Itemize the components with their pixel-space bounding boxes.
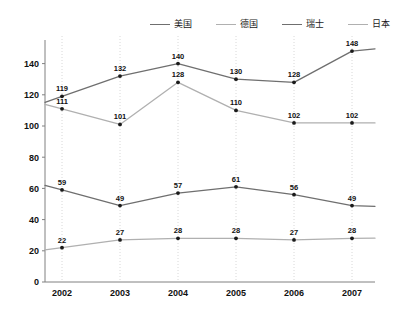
data-point-label: 132 (114, 64, 127, 73)
data-point[interactable] (234, 236, 238, 240)
data-point-label: 61 (232, 175, 240, 184)
line-chart: 美国 德国 瑞士 日本 020406080100120140 200220032… (0, 0, 393, 313)
y-tick-label: 80 (29, 153, 39, 163)
x-tick-label: 2002 (52, 288, 72, 298)
data-point-label: 22 (58, 236, 66, 245)
data-point[interactable] (60, 107, 64, 111)
y-tick-label: 120 (24, 90, 39, 100)
data-point[interactable] (176, 80, 180, 84)
y-tick-labels: 020406080100120140 (24, 59, 45, 287)
data-point-label: 102 (288, 111, 301, 120)
y-tick-label: 60 (29, 184, 39, 194)
y-tick-label: 40 (29, 215, 39, 225)
data-point[interactable] (234, 109, 238, 113)
x-tick-label: 2007 (342, 288, 362, 298)
data-point[interactable] (118, 123, 122, 127)
series-point-labels: 1191321401301281481111011281101021025949… (56, 39, 358, 245)
data-point[interactable] (176, 62, 180, 66)
data-point-label: 128 (172, 70, 185, 79)
series-line (45, 185, 375, 206)
data-point[interactable] (176, 191, 180, 195)
data-point-label: 49 (348, 194, 356, 203)
data-point[interactable] (60, 246, 64, 250)
data-point[interactable] (60, 188, 64, 192)
series-lines (45, 49, 375, 250)
data-point[interactable] (234, 185, 238, 189)
gridlines (62, 36, 352, 282)
data-point[interactable] (234, 77, 238, 81)
data-point[interactable] (292, 193, 296, 197)
data-point-label: 111 (56, 97, 68, 106)
axis-lines (45, 40, 375, 282)
data-point-label: 57 (174, 181, 182, 190)
data-point-label: 101 (114, 112, 127, 121)
data-point[interactable] (350, 121, 354, 125)
x-tick-label: 2004 (168, 288, 188, 298)
data-point[interactable] (350, 204, 354, 208)
data-point-label: 140 (172, 52, 185, 61)
series-line (45, 238, 375, 250)
series-line (45, 82, 375, 124)
data-point[interactable] (292, 121, 296, 125)
x-tick-labels: 200220032004200520062007 (52, 288, 362, 298)
y-tick-label: 0 (34, 277, 39, 287)
data-point-label: 128 (288, 70, 301, 79)
data-point-label: 59 (58, 178, 66, 187)
data-point-label: 148 (346, 39, 359, 48)
data-point-label: 27 (116, 228, 124, 237)
series-line (45, 49, 375, 102)
data-point-label: 49 (116, 194, 124, 203)
data-point[interactable] (292, 238, 296, 242)
data-point-label: 102 (346, 111, 359, 120)
y-tick-label: 20 (29, 246, 39, 256)
data-point-label: 28 (174, 226, 182, 235)
data-point-label: 110 (230, 98, 242, 107)
data-point-label: 28 (348, 226, 356, 235)
data-point[interactable] (292, 80, 296, 84)
y-tick-label: 100 (24, 121, 39, 131)
x-tick-label: 2003 (110, 288, 130, 298)
data-point-label: 119 (56, 84, 68, 93)
x-tick-label: 2005 (226, 288, 246, 298)
data-point[interactable] (350, 49, 354, 53)
series-points (60, 49, 354, 249)
data-point[interactable] (118, 204, 122, 208)
data-point-label: 56 (290, 183, 298, 192)
plot-area: 020406080100120140 200220032004200520062… (0, 0, 393, 313)
data-point-label: 27 (290, 228, 298, 237)
data-point[interactable] (350, 236, 354, 240)
data-point[interactable] (118, 74, 122, 78)
y-tick-label: 140 (24, 59, 39, 69)
data-point[interactable] (118, 238, 122, 242)
x-tick-label: 2006 (284, 288, 304, 298)
data-point[interactable] (176, 236, 180, 240)
data-point-label: 28 (232, 226, 240, 235)
data-point-label: 130 (230, 67, 243, 76)
